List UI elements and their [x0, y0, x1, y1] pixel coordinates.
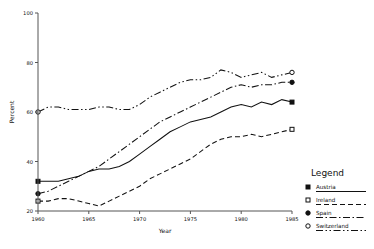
- series-end-marker: [290, 127, 294, 131]
- legend-item-switzerland[interactable]: Switzerland: [306, 223, 366, 231]
- legend: LegendAustriaIrelandSpainSwitzerland: [306, 168, 366, 231]
- legend-marker-open-square: [306, 198, 310, 202]
- series-end-marker: [290, 80, 294, 84]
- legend-item-label: Ireland: [316, 197, 336, 203]
- x-tick-label: 1980: [235, 216, 248, 222]
- legend-item-ireland[interactable]: Ireland: [306, 197, 366, 205]
- axis-lines: [38, 13, 292, 211]
- legend-item-label: Switzerland: [316, 223, 349, 229]
- axes: 20406080100196019651970197519801985YearP…: [8, 10, 299, 234]
- y-tick-label: 60: [26, 109, 33, 115]
- x-tick-label: 1975: [184, 216, 197, 222]
- y-tick-label: 20: [26, 208, 33, 214]
- series-end-marker: [290, 100, 294, 104]
- series-line: [38, 129, 292, 206]
- legend-marker-open-circle: [306, 224, 310, 228]
- chart-svg: 20406080100196019651970197519801985YearP…: [0, 0, 374, 249]
- y-axis-title: Percent: [8, 100, 15, 123]
- series-switzerland: [36, 70, 294, 114]
- legend-item-spain[interactable]: Spain: [306, 210, 366, 218]
- line-chart: 20406080100196019651970197519801985YearP…: [0, 0, 374, 249]
- legend-marker-filled-square: [306, 185, 310, 189]
- x-tick-label: 1965: [82, 216, 95, 222]
- legend-item-label: Spain: [316, 210, 332, 217]
- series-line: [38, 100, 292, 182]
- y-tick-label: 80: [26, 60, 33, 66]
- series-end-marker: [290, 70, 294, 74]
- legend-item-label: Austria: [316, 184, 336, 190]
- series-spain: [36, 80, 294, 196]
- legend-title: Legend: [311, 168, 344, 178]
- y-tick-label: 100: [23, 10, 33, 16]
- y-tick-label: 40: [26, 159, 33, 165]
- x-axis-title: Year: [158, 227, 172, 234]
- series-ireland: [36, 127, 294, 206]
- legend-marker-filled-circle: [306, 211, 310, 215]
- x-tick-label: 1960: [31, 216, 44, 222]
- series-austria: [36, 100, 294, 184]
- x-tick-label: 1985: [285, 216, 298, 222]
- x-tick-label: 1970: [133, 216, 146, 222]
- legend-item-austria[interactable]: Austria: [306, 184, 366, 192]
- plot-area: [36, 70, 294, 206]
